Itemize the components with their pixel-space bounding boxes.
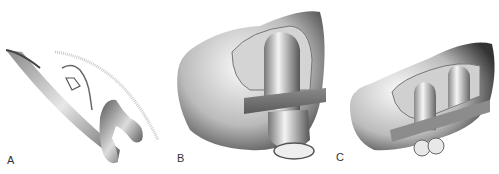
panel-c-render: [330, 0, 499, 174]
panel-label-c: C: [336, 151, 344, 163]
panel-label-a: A: [7, 154, 14, 166]
panel-a: A: [0, 0, 170, 174]
panel-b-render: [160, 0, 340, 174]
panel-label-b: B: [177, 152, 184, 164]
panel-b: B: [160, 0, 340, 174]
panel-c: C: [330, 0, 499, 174]
panel-a-render: [0, 0, 170, 174]
